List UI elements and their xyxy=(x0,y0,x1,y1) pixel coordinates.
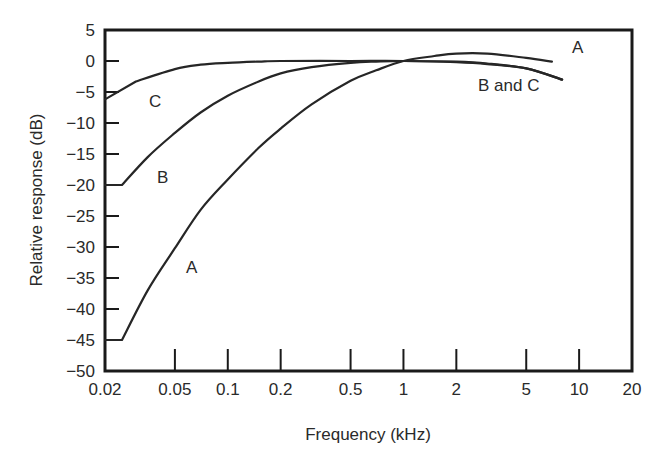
x-tick-label: 10 xyxy=(570,380,589,399)
x-tick-label: 1 xyxy=(399,380,408,399)
y-tick-label: −50 xyxy=(66,362,95,381)
x-tick-label: 0.02 xyxy=(88,380,121,399)
curve-label-b: B xyxy=(157,168,168,187)
curve-a xyxy=(105,53,552,340)
y-tick-label: 5 xyxy=(86,21,95,40)
curve-label-c: C xyxy=(149,92,161,111)
y-tick-label: −40 xyxy=(66,300,95,319)
y-tick-label: −45 xyxy=(66,331,95,350)
y-axis: 50−5−10−15−20−25−30−35−40−45−50 xyxy=(66,21,119,381)
plot-border xyxy=(105,30,632,371)
y-tick-label: −30 xyxy=(66,238,95,257)
x-axis-title: Frequency (kHz) xyxy=(305,425,431,444)
y-tick-label: −20 xyxy=(66,176,95,195)
x-tick-label: 0.1 xyxy=(216,380,240,399)
x-tick-label: 5 xyxy=(522,380,531,399)
y-tick-label: −35 xyxy=(66,269,95,288)
y-tick-label: −5 xyxy=(76,83,95,102)
x-axis: 0.020.050.10.20.51251020 xyxy=(88,349,641,399)
chart: 50−5−10−15−20−25−30−35−40−45−50 0.020.05… xyxy=(0,0,668,464)
x-tick-label: 20 xyxy=(623,380,642,399)
x-tick-label: 0.2 xyxy=(269,380,293,399)
x-tick-label: 0.5 xyxy=(339,380,363,399)
curve-label-b-and-c: B and C xyxy=(478,76,539,95)
y-axis-title: Relative response (dB) xyxy=(27,114,46,287)
y-tick-label: −25 xyxy=(66,207,95,226)
curve-label-a-end: A xyxy=(572,38,584,57)
curves xyxy=(105,53,562,340)
y-tick-label: 0 xyxy=(86,52,95,71)
plot-frame xyxy=(105,30,632,371)
x-tick-label: 2 xyxy=(452,380,461,399)
curve-label-a: A xyxy=(186,258,198,277)
y-tick-label: −10 xyxy=(66,114,95,133)
y-tick-label: −15 xyxy=(66,145,95,164)
x-tick-label: 0.05 xyxy=(158,380,191,399)
